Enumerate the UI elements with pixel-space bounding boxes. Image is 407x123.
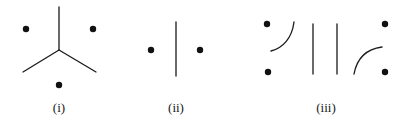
panel-i-graphic (23, 7, 96, 88)
panel-iii-graphic (264, 21, 388, 75)
panel-caption-i: (i) (34, 101, 84, 114)
panel-caption-ii: (ii) (151, 101, 201, 114)
dot-right (197, 47, 203, 53)
dot-left-lower (265, 69, 271, 75)
figure-container: (i) (ii) (iii) (0, 0, 407, 123)
dot-upper-right (90, 26, 96, 32)
dot-upper-left (23, 26, 29, 32)
dot-left (148, 47, 154, 53)
arc-left (271, 22, 294, 51)
panel-ii-graphic (148, 22, 203, 76)
panel-caption-iii: (iii) (301, 101, 351, 114)
dot-bottom (56, 82, 62, 88)
dot-right-upper (382, 21, 388, 27)
y-arm-lower-left (23, 50, 59, 72)
dot-right-lower (382, 69, 388, 75)
y-arm-lower-right (59, 50, 96, 72)
dot-left-upper (264, 21, 270, 27)
arc-right (354, 47, 382, 74)
